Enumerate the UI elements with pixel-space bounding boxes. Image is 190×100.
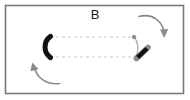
panel-label: B bbox=[0, 8, 190, 22]
pivot-dot-top bbox=[132, 35, 136, 39]
figure-panel-b: B bbox=[0, 0, 190, 100]
